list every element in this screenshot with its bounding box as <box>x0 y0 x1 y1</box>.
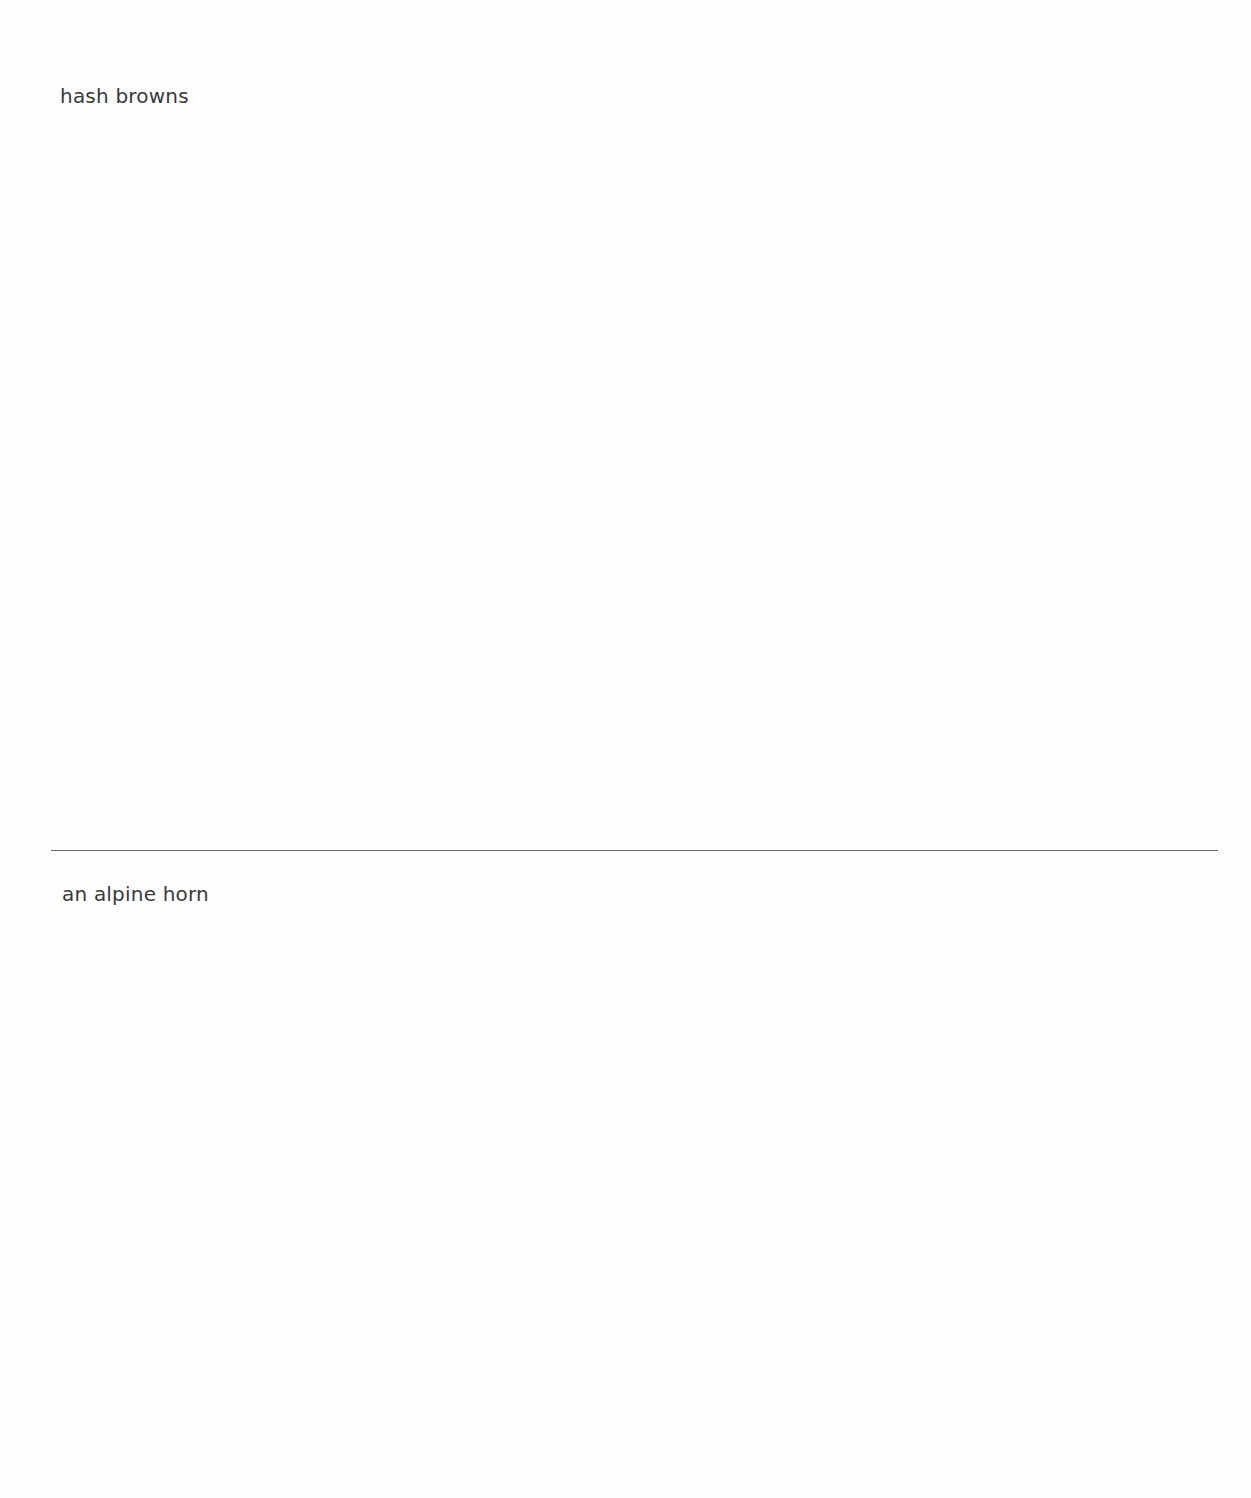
prompt-label: an alpine horn <box>62 884 209 904</box>
blank-drawing-area <box>51 912 1218 1488</box>
section-divider <box>51 850 1218 851</box>
prompt-label: hash browns <box>60 86 189 106</box>
prompt-section-2: an alpine horn <box>0 852 1251 1498</box>
prompt-section-1: hash browns <box>0 0 1251 850</box>
blank-drawing-area <box>51 120 1218 840</box>
